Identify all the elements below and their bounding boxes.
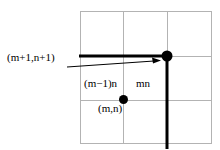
origin-point-label: (m,n): [98, 103, 122, 114]
diagram-canvas: [0, 0, 220, 150]
right-cell-label: mn: [136, 78, 150, 89]
corner-point: [162, 51, 173, 62]
lattice-grid-figure: (m+1,n+1) (m−1)n mn (m,n): [0, 0, 220, 150]
leader-arrowhead-icon: [152, 58, 161, 64]
corner-point-label: (m+1,n+1): [7, 52, 55, 63]
left-cell-label: (m−1)n: [84, 78, 117, 89]
